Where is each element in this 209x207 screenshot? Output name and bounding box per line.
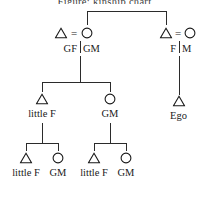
marriage-sign-right: =: [175, 28, 181, 39]
descent-line-gen3-left: [42, 123, 43, 143]
male-symbol-ego: [172, 95, 185, 108]
female-symbol-gm-gen3-left: [52, 152, 65, 165]
male-symbol-little-f-gen3-left: [20, 152, 33, 165]
label-grandfather: GF: [64, 43, 80, 55]
sibling-stem-gen3-left-male: [26, 143, 27, 151]
descent-line-left-family: [80, 56, 81, 82]
sibling-stem-gen3-right-male: [94, 143, 95, 151]
female-symbol-mother: [184, 27, 197, 40]
sibling-bar-gen3-right: [94, 143, 127, 144]
sibling-bar-gen3-left: [26, 143, 59, 144]
sibling-bar-gen2: [42, 82, 110, 83]
label-grandmother: GM: [80, 43, 100, 55]
label-gm-gen3-right: GM: [118, 167, 135, 179]
top-sibling-bar: [87, 11, 166, 12]
chart-title: Figure: kinship chart: [0, 0, 209, 4]
label-ego: Ego: [170, 110, 187, 122]
sibling-stem-little-f: [42, 82, 43, 92]
label-mother: M: [179, 43, 191, 55]
female-symbol-grandmother: [81, 27, 94, 40]
female-symbol-gm-gen3-right: [120, 152, 133, 165]
marriage-sign-left: =: [71, 28, 77, 39]
male-symbol-little-f-gen2: [36, 93, 49, 106]
male-symbol-father: [160, 27, 173, 40]
male-symbol-grandfather: [55, 27, 68, 40]
label-little-f-gen3-left: little F: [9, 167, 43, 179]
descent-line-ego: [179, 56, 180, 95]
sibling-stem-gen3-right-female: [126, 143, 127, 151]
descent-line-gen3-right: [110, 123, 111, 143]
label-little-f-gen2: little F: [28, 108, 56, 120]
top-descent-line-left: [87, 11, 88, 25]
top-descent-line-right: [166, 11, 167, 25]
male-symbol-little-f-gen3-right: [88, 152, 101, 165]
sibling-stem-gm: [110, 82, 111, 92]
spouse-divider-right: [179, 41, 180, 53]
label-gm-gen2: GM: [102, 108, 119, 120]
label-gm-gen3-left: GM: [50, 167, 67, 179]
female-symbol-gm-gen2: [104, 93, 117, 106]
sibling-stem-gen3-left-female: [58, 143, 59, 151]
label-little-f-gen3-right: little F: [77, 167, 111, 179]
spouse-divider-left: [80, 41, 81, 53]
kinship-diagram: Figure: kinship chart = GF GM = F M litt…: [0, 0, 209, 207]
